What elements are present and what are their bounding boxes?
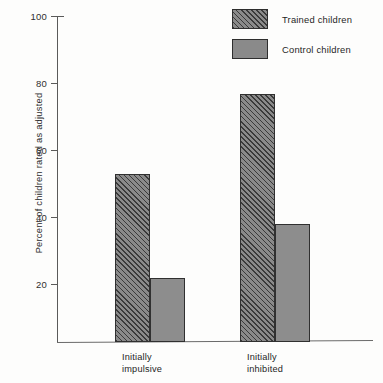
bar <box>150 278 185 343</box>
y-axis-line <box>57 16 58 343</box>
y-axis-top-cap <box>57 16 64 17</box>
legend-item-trained-children: Trained children <box>232 9 352 29</box>
y-axis-tick <box>51 83 58 84</box>
y-axis-tick-label: 20 <box>17 279 47 290</box>
bar-chart: 20406080100 Percent of children rated as… <box>0 0 383 383</box>
bar <box>275 224 310 342</box>
x-axis-category-label: Initially inhibited <box>247 352 283 375</box>
y-axis-tick <box>51 217 58 218</box>
bar <box>115 174 150 343</box>
y-axis-tick-label: 100 <box>17 11 47 22</box>
legend-label: Trained children <box>282 14 352 25</box>
y-axis-tick <box>51 284 58 285</box>
legend-label: Control children <box>282 44 351 55</box>
legend-item-control-children: Control children <box>232 39 351 59</box>
y-axis-title: Percent of children rated as adjusted <box>34 68 44 278</box>
legend-swatch-solid-icon <box>232 39 268 59</box>
x-axis-category-label: Initially impulsive <box>122 352 162 375</box>
y-axis-tick <box>51 16 58 17</box>
x-axis-line <box>57 340 373 343</box>
y-axis-tick <box>51 150 58 151</box>
legend-swatch-hatched-icon <box>232 9 268 29</box>
bar <box>240 94 275 343</box>
